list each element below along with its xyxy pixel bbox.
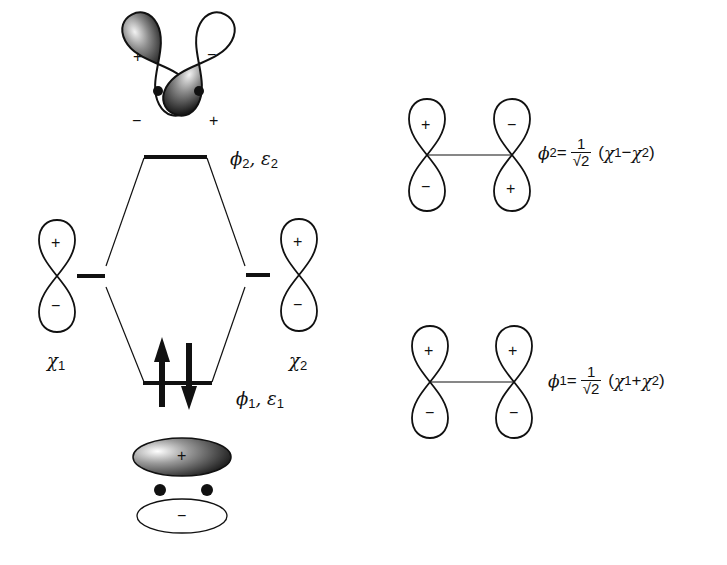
phi2-equation: ϕ2 = 1 √2 ( χ1 − χ2 )	[538, 136, 655, 169]
sign-minus: −	[177, 507, 186, 525]
sign-plus: +	[209, 112, 218, 130]
fraction: 1 √2	[571, 136, 592, 169]
sign-minus: −	[425, 404, 434, 422]
sign-plus: +	[508, 342, 517, 360]
mo-diagram	[0, 0, 727, 565]
atom-nucleus-icon	[194, 86, 204, 96]
bonding-level-label: ϕ1, ε1	[236, 388, 284, 411]
fraction: 1 √2	[581, 364, 602, 397]
ao-chi2-label: χ2	[289, 350, 307, 373]
sign-minus: −	[509, 404, 518, 422]
sign-minus: −	[293, 296, 302, 314]
sign-plus: +	[506, 180, 515, 198]
atom-nucleus-icon	[153, 86, 163, 96]
phi1-equation: ϕ1 = 1 √2 ( χ1 + χ2 )	[548, 364, 665, 397]
electron-pair-icon	[154, 337, 197, 410]
sign-plus: +	[51, 234, 60, 252]
sign-plus: +	[424, 342, 433, 360]
sign-plus: +	[133, 48, 142, 66]
sign-minus: −	[421, 178, 430, 196]
correlation-lines	[106, 158, 245, 382]
ao-chi1-label: χ1	[47, 350, 65, 373]
antibonding-level-label: ϕ2, ε2	[230, 148, 278, 171]
sign-plus: +	[421, 116, 430, 134]
sign-minus: −	[207, 46, 216, 64]
sign-plus: +	[293, 233, 302, 251]
sign-minus: −	[507, 116, 516, 134]
sign-minus: −	[132, 112, 141, 130]
sign-plus: +	[177, 447, 186, 465]
sign-minus: −	[51, 297, 60, 315]
